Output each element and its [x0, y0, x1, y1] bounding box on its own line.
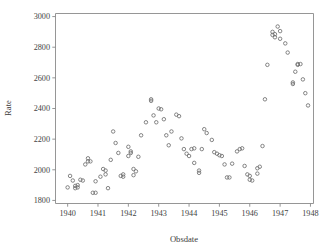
x-axis-title: Obsdate — [170, 234, 198, 244]
data-point — [132, 173, 136, 177]
data-point — [202, 127, 206, 131]
data-point — [165, 134, 169, 138]
x-tick-label: 1944 — [181, 209, 197, 218]
y-tick-label: 3000 — [34, 12, 50, 21]
plot-frame — [56, 14, 314, 204]
x-tick-label: 1940 — [59, 209, 75, 218]
data-point — [155, 121, 159, 125]
data-point — [104, 173, 108, 177]
data-point — [256, 172, 260, 176]
y-tick-label: 2000 — [34, 166, 50, 175]
data-point — [284, 42, 288, 46]
data-point — [182, 147, 186, 151]
data-point — [306, 104, 310, 108]
x-tick-label: 1948 — [302, 209, 318, 218]
data-point — [114, 141, 118, 145]
scatter-chart-figure: 1800200022002400260028003000 19401941194… — [0, 0, 335, 249]
data-point — [94, 180, 98, 184]
data-point — [139, 134, 143, 138]
data-point — [301, 78, 305, 82]
y-axis-title: Rate — [3, 100, 13, 116]
data-point — [89, 160, 93, 164]
data-point — [84, 163, 88, 167]
data-point — [134, 170, 138, 174]
x-tick-label: 1942 — [120, 209, 136, 218]
data-point — [180, 137, 184, 141]
x-tick-label: 1946 — [242, 209, 258, 218]
x-tick-label: 1941 — [90, 209, 106, 218]
x-tick-label: 1945 — [211, 209, 227, 218]
data-point — [243, 164, 247, 168]
data-point — [266, 63, 270, 67]
data-point — [192, 161, 196, 165]
data-point — [210, 138, 214, 142]
data-point — [278, 29, 282, 33]
data-point — [294, 70, 298, 74]
data-point — [228, 176, 232, 180]
data-point — [66, 186, 70, 190]
data-point — [278, 37, 282, 41]
y-tick-label: 1800 — [34, 196, 50, 205]
data-point — [162, 117, 166, 121]
data-point — [68, 174, 72, 178]
data-point — [111, 130, 115, 134]
data-point — [286, 51, 290, 55]
y-tick-label: 2800 — [34, 43, 50, 52]
data-point — [276, 25, 280, 29]
data-point — [127, 145, 131, 149]
y-tick-label: 2200 — [34, 135, 50, 144]
data-point — [200, 147, 204, 151]
y-tick-label: 2600 — [34, 74, 50, 83]
x-tick-label: 1947 — [272, 209, 288, 218]
data-point — [223, 163, 227, 167]
data-point — [263, 98, 267, 102]
data-point — [152, 114, 156, 118]
data-point — [99, 175, 103, 179]
data-point — [197, 169, 201, 173]
x-axis-ticks: 194019411942194319441945194619471948 — [59, 204, 318, 219]
y-axis-ticks: 1800200022002400260028003000 — [34, 12, 56, 205]
data-point — [137, 155, 141, 159]
data-point — [117, 151, 121, 155]
data-point — [109, 158, 113, 162]
data-point — [71, 179, 75, 183]
plot-border — [56, 14, 314, 204]
data-point — [127, 154, 131, 158]
data-point — [144, 121, 148, 125]
x-tick-label: 1943 — [151, 209, 167, 218]
data-point — [167, 144, 171, 148]
data-point — [170, 130, 174, 134]
data-point — [106, 186, 110, 190]
data-points-group — [66, 25, 310, 195]
y-tick-label: 2400 — [34, 104, 50, 113]
data-point — [304, 91, 308, 95]
data-point — [261, 144, 265, 148]
data-point — [187, 154, 191, 158]
data-point — [230, 162, 234, 166]
data-point — [205, 131, 209, 135]
scatter-plot-svg: 1800200022002400260028003000 19401941194… — [0, 0, 335, 249]
